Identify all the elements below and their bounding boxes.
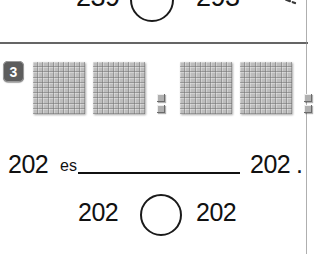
comparison-sentence: 202 es 202 . [8,150,308,182]
previous-right-number: 293 [196,0,240,13]
previous-answer-circle[interactable] [130,0,174,22]
sentence-verb: es [60,157,77,175]
sentence-answer-blank[interactable] [78,172,240,174]
sentence-left-number: 202 [8,150,48,179]
compare-right-number: 202 [196,198,236,227]
comparison-row: 202 202 [0,196,300,242]
section-divider [0,42,308,44]
base-ten-model-right [180,62,312,114]
previous-exercise: 239 293 [0,0,300,30]
unit-cube-icon [304,94,312,102]
compare-left-number: 202 [78,198,118,227]
page-edge-line [306,0,307,254]
previous-left-number: 239 [76,0,120,13]
hundred-flat-icon [93,62,145,114]
exercise-number-badge: 3 [3,61,24,82]
less-than-handwritten-icon [270,0,300,10]
hundred-flat-icon [33,62,85,114]
sentence-right-number: 202 [250,150,290,179]
unit-cube-stack-left [157,94,165,113]
unit-cube-icon [304,105,312,113]
compare-answer-circle[interactable] [140,194,182,236]
sentence-period: . [296,150,303,179]
unit-cube-stack-right [304,94,312,113]
unit-cube-icon [157,94,165,102]
hundred-flat-icon [180,62,232,114]
unit-cube-icon [157,105,165,113]
base-ten-model-left [33,62,165,114]
hundred-flat-icon [240,62,292,114]
